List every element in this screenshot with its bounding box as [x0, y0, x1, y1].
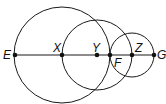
- point-f: [108, 53, 113, 58]
- label-y: Y: [92, 41, 101, 55]
- point-g: [152, 53, 157, 58]
- point-z: [130, 53, 135, 58]
- label-f: F: [114, 56, 122, 70]
- label-g: G: [157, 48, 166, 62]
- point-e: [13, 53, 18, 58]
- label-e: E: [3, 48, 12, 62]
- label-x: X: [52, 41, 62, 55]
- circles-diagram: E X Y F Z G: [0, 0, 166, 104]
- label-z: Z: [134, 41, 143, 55]
